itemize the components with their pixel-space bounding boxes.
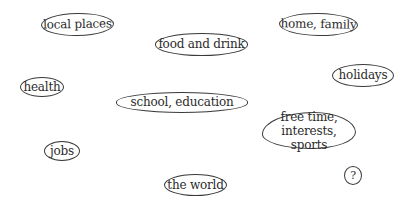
topic-label-line-2: interests, sports xyxy=(263,124,355,152)
question-mark-icon: ? xyxy=(350,169,356,182)
topic-label: jobs xyxy=(50,145,74,158)
topic-label: food and drink xyxy=(158,38,244,51)
topic-bubble-other[interactable]: ? xyxy=(344,166,362,185)
topic-bubble-home-family[interactable]: home, family xyxy=(279,12,358,36)
topic-bubble-free-time[interactable]: free time, interests, sports xyxy=(262,112,356,149)
topic-bubble-holidays[interactable]: holidays xyxy=(332,64,394,87)
topic-bubble-health[interactable]: health xyxy=(20,77,64,97)
topic-bubble-food-and-drink[interactable]: food and drink xyxy=(155,33,248,56)
topic-label: school, education xyxy=(130,96,233,109)
topic-map: local places food and drink home, family… xyxy=(0,0,405,207)
topic-bubble-school-education[interactable]: school, education xyxy=(116,92,248,113)
topic-label: home, family xyxy=(280,17,356,31)
topic-label-line-1: free time, xyxy=(280,110,337,124)
topic-label: health xyxy=(23,81,60,94)
topic-label: local places xyxy=(43,17,112,31)
topic-label: the world xyxy=(167,179,223,192)
topic-bubble-local-places[interactable]: local places xyxy=(41,12,114,36)
topic-label: holidays xyxy=(339,69,388,82)
topic-bubble-the-world[interactable]: the world xyxy=(164,174,227,196)
topic-bubble-jobs[interactable]: jobs xyxy=(44,141,80,161)
